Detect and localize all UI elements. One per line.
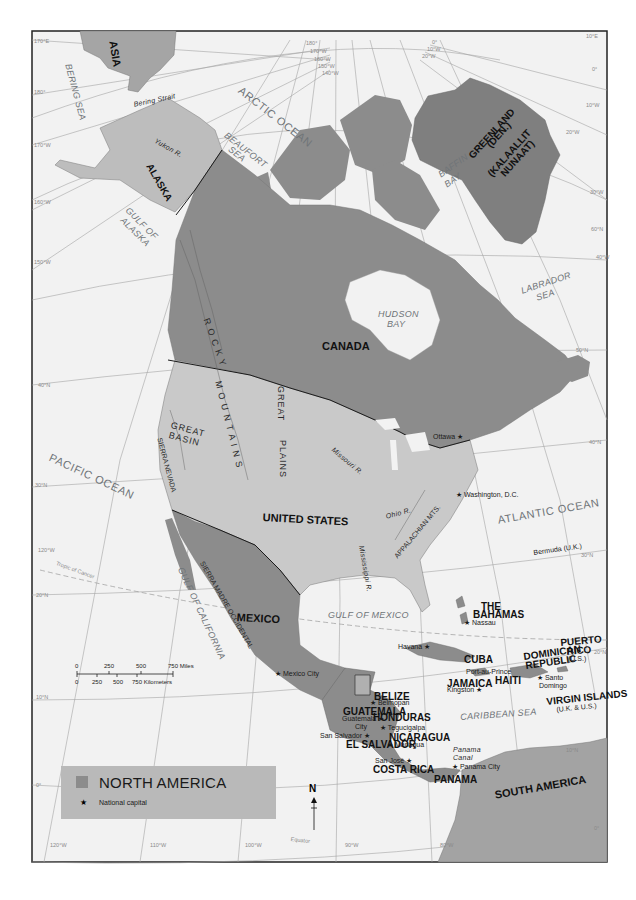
santo-domingo-1-label: ★ Santo	[537, 674, 563, 681]
graticule-mark-label: 40°W	[596, 255, 610, 261]
north-arrow-icon	[308, 784, 322, 832]
tegucigalpa-label: ★ Tegucigalpa	[380, 724, 425, 731]
costa-rica-label: COSTA RICA	[373, 765, 434, 775]
graticule-mark-label: 0°	[36, 783, 41, 789]
san-jose-label: San José ★	[375, 757, 412, 764]
graticule-mark-label: 170°E	[34, 39, 49, 45]
washington-label: ★ Washington, D.C.	[456, 491, 519, 498]
mexico-label: MEXICO	[236, 612, 280, 625]
graticule-mark-label: 10°N	[36, 695, 48, 701]
graticule-mark-label: 180°	[306, 41, 317, 47]
panama-city-label: ★ Panama City	[452, 763, 500, 770]
legend-title: NORTH AMERICA	[99, 774, 226, 791]
graticule-mark-label: 30°W	[590, 190, 604, 196]
graticule-mark-label: 0°	[432, 40, 437, 46]
canada-label: CANADA	[322, 341, 370, 352]
graticule-mark-label: 20°W	[422, 54, 436, 60]
graticule-mark-label: 20°N	[594, 650, 606, 656]
graticule-mark-label: 10°W	[586, 103, 600, 109]
graticule-mark-label: 80°W	[440, 843, 454, 849]
north-arrow: N	[308, 784, 322, 832]
ottawa-label: Ottawa ★	[433, 433, 463, 440]
graticule-mark-label: 170°W	[310, 49, 327, 55]
cuba-label: CUBA	[464, 655, 493, 665]
graticule-mark-label: 110°W	[150, 843, 166, 849]
gulf-of-mexico-label: GULF OF MEXICO	[328, 611, 409, 620]
scale-km-250: 250	[92, 679, 102, 685]
scale-miles-250: 250	[104, 663, 114, 669]
graticule-mark-label: 40°N	[38, 383, 50, 389]
graticule-mark-label: 10°E	[586, 34, 598, 40]
map-legend: NORTH AMERICA ★ National capital	[61, 766, 276, 819]
hudson-bay-1-label: HUDSON	[378, 310, 419, 319]
graticule-mark-label: 150°W	[34, 260, 51, 266]
scale-miles-500: 500	[136, 663, 146, 669]
panama-label: PANAMA	[434, 775, 477, 785]
managua-label: ★ Managua	[387, 741, 424, 748]
graticule-mark-label: 0°	[592, 67, 597, 73]
legend-capital-label: National capital	[99, 799, 147, 806]
panama-canal-2-label: Canal	[453, 754, 473, 761]
graticule-mark-label: 60°N	[591, 227, 603, 233]
graticule-mark-label: 100°W	[245, 843, 262, 849]
graticule-mark-label: 140°W	[322, 71, 339, 77]
great-plains-1-label: GREAT	[276, 386, 285, 421]
haiti-label: HAITI	[495, 676, 521, 686]
graticule-mark-label: 30°N	[35, 483, 47, 489]
graticule-mark-label: 160°W	[34, 200, 51, 206]
nassau-label: ★ Nassau	[464, 619, 496, 626]
graticule-mark-label: 170°W	[34, 143, 51, 149]
north-america-map	[0, 0, 636, 900]
puerto-rico-us-label: (U.S.)	[568, 655, 586, 662]
belize-guatemala-outline	[355, 675, 370, 695]
scale-km-750: 750 Kilometers	[132, 679, 172, 685]
mexico-city-label: ★ Mexico City	[275, 670, 319, 677]
havana-label: Havana ★	[398, 643, 430, 650]
scale-km-0: 0	[75, 679, 78, 685]
great-plains-2-label: PLAINS	[278, 440, 287, 478]
scale-km-500: 500	[113, 679, 123, 685]
graticule-mark-label: 90°W	[345, 843, 359, 849]
graticule-mark-label: 160°W	[314, 57, 331, 63]
graticule-mark-label: 10°W	[427, 47, 441, 53]
scale-bar: 0 250 500 750 Miles 0 250 500 750 Kilome…	[75, 662, 195, 692]
graticule-mark-label: 120°W	[38, 548, 55, 554]
graticule-mark-label: 10°N	[566, 748, 578, 754]
santo-domingo-2-label: Domingo	[539, 682, 567, 689]
graticule-mark-label: 150°W	[318, 64, 335, 70]
graticule-mark-label: 40°N	[589, 440, 601, 446]
graticule-mark-label: 20°W	[566, 130, 580, 136]
capital-star-icon: ★	[80, 798, 87, 807]
kingston-label: Kingston ★	[447, 686, 482, 693]
san-salvador-label: San Salvador ★	[320, 732, 370, 739]
graticule-mark-label: 50°N	[576, 348, 588, 354]
graticule-mark-label: 20°N	[36, 593, 48, 599]
graticule-mark-label: 180°	[34, 90, 45, 96]
legend-swatch	[76, 776, 88, 788]
guatemala-city-1-label: Guatemala ★	[342, 715, 384, 722]
guatemala-city-2-label: City	[355, 723, 367, 730]
panama-canal-1-label: Panama	[453, 746, 481, 753]
graticule-mark-label: 0°	[594, 826, 599, 832]
hudson-bay-2-label: BAY	[387, 320, 405, 329]
scale-miles-0: 0	[75, 663, 78, 669]
graticule-mark-label: 30°N	[581, 553, 593, 559]
port-au-prince-label: Port-au-Prince	[466, 668, 511, 675]
graticule-mark-label: 120°W	[50, 843, 67, 849]
belmopan-label: ★ Belmopan	[370, 699, 409, 706]
scale-miles-750: 750 Miles	[168, 663, 194, 669]
